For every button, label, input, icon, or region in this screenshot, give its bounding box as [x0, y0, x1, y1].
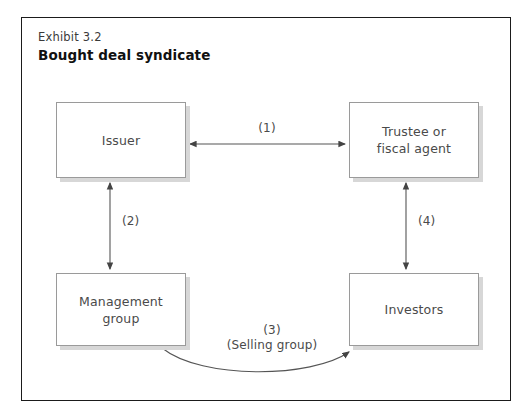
edge-label-4: (4) [418, 214, 464, 229]
edge-label-3-selling-group: (3) (Selling group) [192, 323, 352, 353]
node-investors-label: Investors [385, 301, 444, 318]
edge-label-2: (2) [122, 214, 168, 229]
node-issuer[interactable]: Issuer [56, 102, 186, 178]
node-management-group-label: Management group [79, 293, 163, 327]
node-trustee-label: Trustee or fiscal agent [377, 123, 451, 157]
exhibit-frame: Exhibit 3.2 Bought deal syndicate Issuer… [21, 17, 511, 401]
edge-label-1: (1) [237, 121, 297, 136]
node-investors[interactable]: Investors [349, 273, 479, 346]
node-issuer-label: Issuer [102, 132, 140, 149]
node-trustee[interactable]: Trustee or fiscal agent [349, 102, 479, 178]
node-management-group[interactable]: Management group [56, 273, 186, 346]
